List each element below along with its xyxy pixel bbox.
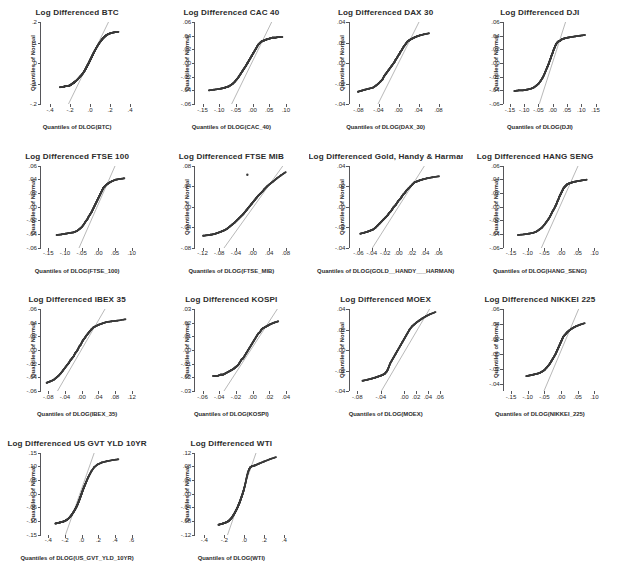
x-axis-tick-label: -.4 <box>201 537 208 543</box>
data-point <box>415 321 417 323</box>
data-point <box>399 344 401 346</box>
data-point <box>220 523 222 525</box>
data-point <box>543 369 545 371</box>
x-axis-tick-label: .10 <box>590 394 598 400</box>
x-axis-tick-label: .00 <box>77 394 85 400</box>
data-point <box>73 355 75 357</box>
data-point <box>544 72 546 74</box>
y-axis-tick-label: .00 <box>183 203 191 209</box>
data-point <box>256 335 258 337</box>
data-point <box>554 205 556 207</box>
data-point <box>226 86 228 88</box>
plot-data-layer <box>503 309 603 391</box>
x-axis-tick-label: -.08 <box>43 394 54 400</box>
y-axis-tick <box>346 104 349 105</box>
x-axis-tick-label: .05 <box>111 250 119 256</box>
x-axis-tick-label: -.04 <box>367 250 378 256</box>
data-point <box>366 230 368 232</box>
x-axis-label: Quantiles of DLOG(NIKKEI_225) <box>463 411 617 417</box>
data-point <box>65 519 67 521</box>
x-axis-tick-label: .2 <box>107 107 112 113</box>
y-axis-tick-label: .04 <box>491 176 499 182</box>
x-axis-tick-label: -.15 <box>506 250 517 256</box>
data-point <box>574 35 576 37</box>
plot-title: Log Differenced IBEX 35 <box>0 295 154 304</box>
plot-data-layer <box>194 453 294 535</box>
data-point <box>399 197 401 199</box>
data-point <box>561 189 563 191</box>
y-axis-tick-label: .06 <box>29 306 37 312</box>
data-point <box>370 378 372 380</box>
qq-plot-panel: Log Differenced NIKKEI 225Quantiles of N… <box>463 287 617 431</box>
data-point <box>541 371 543 373</box>
qq-plot-panel: Log Differenced DAX 30Quantiles of Norma… <box>309 0 463 144</box>
data-point <box>225 521 227 523</box>
y-axis-tick-label: -.04 <box>489 87 500 93</box>
data-point <box>229 225 231 227</box>
y-axis-tick-label: .0 <box>32 60 37 66</box>
plot-title: Log Differenced FTSE MIB <box>154 152 308 161</box>
data-point <box>584 34 586 36</box>
x-axis-label: Quantiles of DLOG(FTSE_MIB) <box>154 268 308 274</box>
data-point <box>254 198 256 200</box>
y-axis-tick <box>192 391 195 392</box>
y-axis-tick-label: .02 <box>337 326 345 332</box>
data-point <box>429 313 431 315</box>
data-point <box>398 347 400 349</box>
data-point <box>549 59 551 61</box>
data-point <box>550 55 552 57</box>
data-point <box>232 515 234 517</box>
data-point <box>418 319 420 321</box>
data-point <box>63 86 65 88</box>
data-point <box>227 371 229 373</box>
data-point <box>413 36 415 38</box>
data-point <box>223 522 225 524</box>
data-point <box>89 473 91 475</box>
y-axis-tick-label: .00 <box>337 203 345 209</box>
data-point <box>251 202 253 204</box>
x-axis-tick-label: .04 <box>414 107 422 113</box>
y-axis-tick-label: -.02 <box>181 374 192 380</box>
data-point <box>278 36 280 38</box>
reference-line <box>378 22 419 104</box>
y-axis-tick-label: .08 <box>183 463 191 469</box>
data-point <box>242 70 244 72</box>
data-point <box>557 198 559 200</box>
data-point <box>265 39 267 41</box>
data-point <box>410 325 412 327</box>
data-point <box>108 33 110 35</box>
data-point <box>236 219 238 221</box>
data-point <box>550 57 552 59</box>
data-point <box>105 184 107 186</box>
y-axis-tick-label: -.04 <box>335 101 346 107</box>
data-point <box>241 496 243 498</box>
data-point <box>230 84 232 86</box>
x-axis-tick-label: -.06 <box>197 394 208 400</box>
x-axis-tick-label: -.15 <box>505 107 516 113</box>
data-point <box>384 216 386 218</box>
x-axis-label: Quantiles of DLOG(MOEX) <box>309 411 463 417</box>
y-axis-tick-label: .00 <box>491 203 499 209</box>
data-point <box>93 51 95 53</box>
data-point <box>269 458 271 460</box>
data-point <box>260 192 262 194</box>
data-point <box>272 37 274 39</box>
x-axis-tick-label: -.15 <box>197 107 208 113</box>
data-point <box>83 487 85 489</box>
data-point <box>102 186 104 188</box>
data-point <box>76 503 78 505</box>
data-point <box>75 80 77 82</box>
data-point <box>59 521 61 523</box>
x-axis-tick-label: .02 <box>412 394 420 400</box>
data-point <box>543 74 545 76</box>
y-axis-tick-label: -.02 <box>489 366 500 372</box>
data-point <box>222 230 224 232</box>
data-point <box>217 375 219 377</box>
y-axis-tick-label: .04 <box>337 162 345 168</box>
data-point <box>64 367 66 369</box>
data-point <box>363 231 365 233</box>
data-point <box>547 365 549 367</box>
data-point <box>409 185 411 187</box>
data-point <box>244 355 246 357</box>
data-point <box>76 229 78 231</box>
